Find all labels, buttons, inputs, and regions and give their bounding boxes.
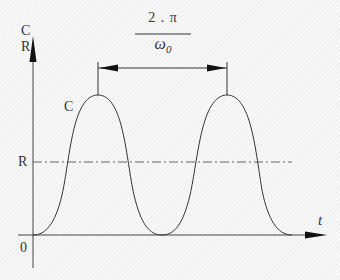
y-axis-arrow-icon <box>30 36 37 62</box>
omega-subscript: 0 <box>166 43 172 55</box>
x-axis-arrow-icon <box>305 232 327 239</box>
period-denominator: ω0 <box>138 35 188 55</box>
reference-label-r: R <box>18 155 27 169</box>
dimension-arrow-left-icon <box>99 65 118 72</box>
waveform-curve <box>33 95 292 235</box>
y-axis-label-r: R <box>21 40 30 54</box>
y-axis-label-c: C <box>21 24 30 38</box>
period-numerator: 2 . π <box>138 10 188 26</box>
curve-label-c: C <box>64 100 73 114</box>
omega-symbol: ω <box>155 35 166 52</box>
dimension-arrow-right-icon <box>207 65 226 72</box>
origin-label: 0 <box>20 241 27 255</box>
x-axis-label-t: t <box>318 213 322 227</box>
